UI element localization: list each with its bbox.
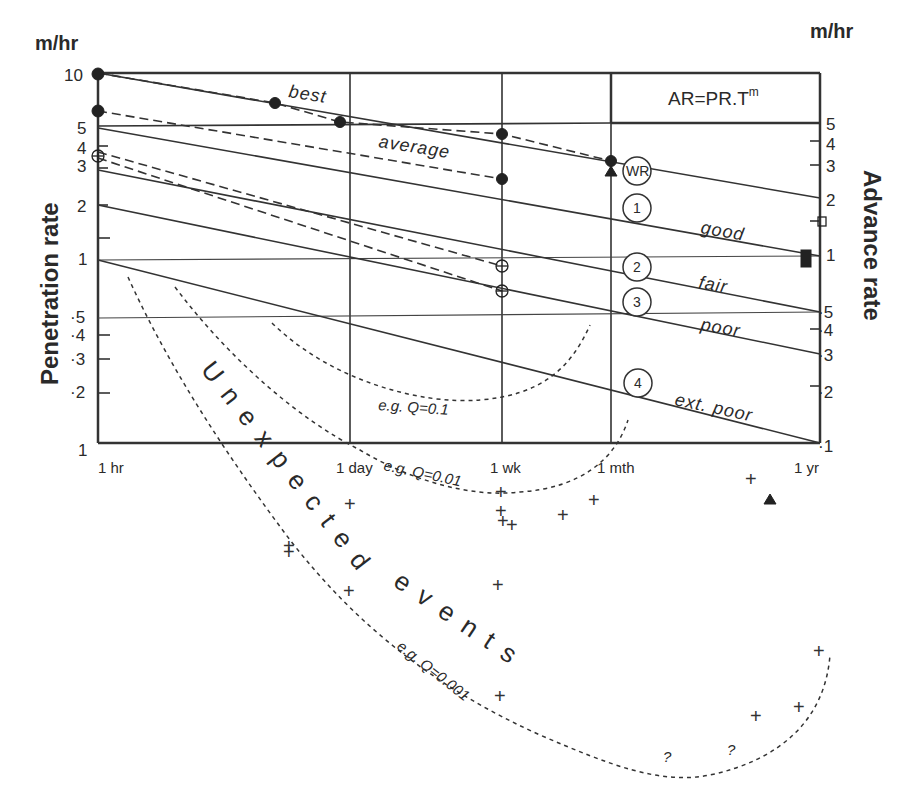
svg-text:+: + [750, 705, 762, 727]
chart-canvas: m/hr m/hr Penetration rate Advance rate … [0, 0, 904, 809]
svg-text:4: 4 [826, 135, 835, 154]
left-unit-label: m/hr [35, 32, 79, 54]
svg-text:1: 1 [633, 200, 641, 216]
svg-text:·2: ·2 [70, 383, 85, 402]
svg-text:·3: ·3 [818, 346, 833, 365]
q01-label: e.g. Q=0.1 [378, 396, 449, 418]
svg-text:+: + [343, 580, 355, 602]
y-axis-title-left: Penetration rate [36, 202, 63, 385]
svg-text:+: + [494, 685, 506, 707]
svg-text:·5: ·5 [818, 303, 833, 322]
svg-text:5: 5 [77, 119, 86, 138]
y-axis-title-right: Advance rate [859, 170, 886, 321]
svg-text:1 yr: 1 yr [794, 459, 819, 476]
right-axis-ticks: 5 4 3 2 1 ·5 ·4 ·3 ·2 ·1 [810, 115, 835, 456]
svg-text:+: + [813, 640, 825, 662]
svg-text:·4: ·4 [70, 326, 85, 345]
svg-text:3: 3 [826, 157, 835, 176]
rating-circles: WR 1 2 3 4 [623, 157, 652, 397]
svg-text:+: + [283, 541, 295, 563]
q0001-label: e.g. Q=0.001 [394, 637, 473, 704]
svg-text:·2: ·2 [818, 383, 833, 402]
svg-text:+: + [793, 696, 805, 718]
right-unit-label: m/hr [810, 20, 854, 42]
svg-text:+: + [588, 489, 600, 511]
formula-text: AR=PR.Tm [668, 85, 759, 109]
svg-text:1: 1 [78, 441, 87, 460]
svg-text:poor: poor [698, 314, 742, 341]
svg-text:good: good [699, 217, 746, 244]
svg-text:10: 10 [64, 66, 83, 85]
svg-text:5: 5 [826, 115, 835, 134]
svg-text:2: 2 [633, 259, 641, 275]
svg-text:fair: fair [697, 272, 729, 297]
q001-label: e.g. Q=0.01 [382, 456, 463, 489]
unexpected-event-markers: + + + + + + + + + + + + + + + + ? ? [283, 468, 825, 765]
q-curves [128, 277, 830, 778]
svg-text:3: 3 [77, 157, 86, 176]
svg-text:4: 4 [77, 139, 86, 158]
svg-text:2: 2 [77, 197, 86, 216]
svg-text:·4: ·4 [818, 321, 833, 340]
svg-text:1: 1 [78, 250, 87, 269]
svg-text:+: + [344, 493, 356, 515]
series-b [98, 158, 502, 291]
svg-text:average: average [377, 131, 451, 162]
svg-text:1 day: 1 day [336, 459, 373, 476]
svg-text:ext. poor: ext. poor [673, 389, 754, 425]
svg-text:4: 4 [634, 375, 642, 391]
svg-text:+: + [557, 504, 569, 526]
svg-text:3: 3 [633, 294, 641, 310]
svg-text:WR: WR [626, 163, 649, 179]
svg-text:·3: ·3 [70, 350, 85, 369]
svg-text:+: + [506, 514, 518, 536]
svg-text:+: + [745, 468, 757, 490]
svg-text:?: ? [663, 748, 672, 765]
svg-text:+: + [492, 574, 504, 596]
svg-text:1: 1 [826, 246, 835, 265]
svg-text:·5: ·5 [70, 308, 85, 327]
svg-text:1 wk: 1 wk [490, 459, 521, 476]
svg-text:2: 2 [826, 191, 835, 210]
svg-text:·1: ·1 [818, 437, 833, 456]
svg-text:best: best [287, 81, 328, 107]
left-axis-ticks: 10 5 4 3 2 1 ·5 ·4 ·3 ·2 1 [64, 66, 110, 460]
svg-text:?: ? [727, 741, 736, 758]
svg-text:1 hr: 1 hr [98, 459, 124, 476]
